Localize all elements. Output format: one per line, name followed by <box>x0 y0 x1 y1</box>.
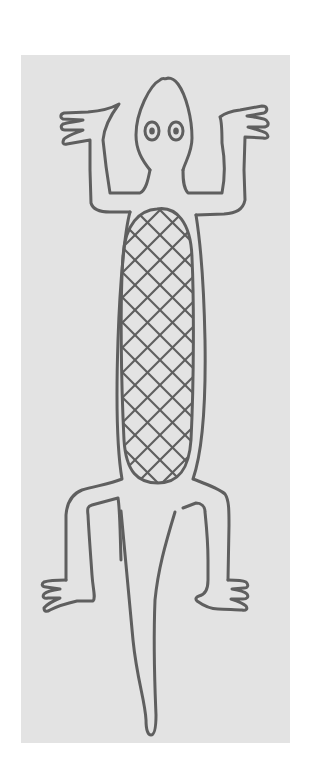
hind-left-leg <box>42 498 121 611</box>
lizard-illustration <box>0 0 316 771</box>
front-right-leg <box>183 106 268 215</box>
tail <box>121 511 175 735</box>
hind-right-leg <box>183 503 248 610</box>
head <box>136 78 192 170</box>
eyes <box>145 122 183 140</box>
